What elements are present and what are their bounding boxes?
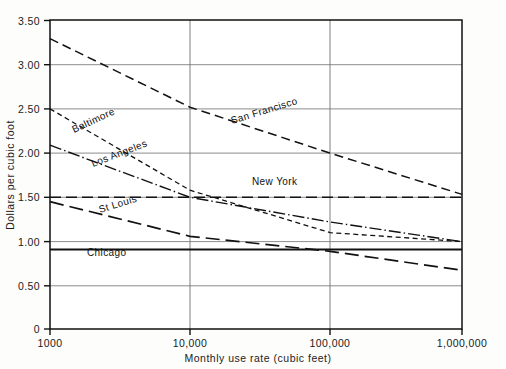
ytick-label-1.50: 1.50 bbox=[18, 191, 40, 203]
y-axis-title: Dollars per cubic foot bbox=[4, 120, 16, 230]
ytick-label-0.50: 0.50 bbox=[18, 280, 40, 292]
x-ticks bbox=[50, 329, 462, 335]
ytick-label-0: 0 bbox=[34, 323, 40, 335]
ytick-label-2.50: 2.50 bbox=[18, 103, 40, 115]
xtick-label-1000: 1000 bbox=[38, 337, 63, 349]
xtick-label-1000000: 1,000,000 bbox=[437, 337, 487, 349]
xtick-label-100000: 100,000 bbox=[310, 337, 351, 349]
x-axis-title: Monthly use rate (cubic feet) bbox=[185, 352, 332, 364]
ytick-label-1.00: 1.00 bbox=[18, 236, 40, 248]
chart-figure: 3.50 3.00 2.50 2.00 1.50 1.00 0.50 0 100… bbox=[0, 0, 506, 369]
series-label-new-york: New York bbox=[252, 176, 298, 187]
line-chart: 3.50 3.00 2.50 2.00 1.50 1.00 0.50 0 100… bbox=[0, 0, 506, 369]
xtick-label-10000: 10,000 bbox=[173, 337, 208, 349]
plot-background bbox=[50, 20, 462, 329]
series-label-chicago: Chicago bbox=[87, 247, 127, 258]
y-ticks bbox=[44, 21, 50, 330]
ytick-label-3.00: 3.00 bbox=[18, 59, 40, 71]
ytick-label-3.50: 3.50 bbox=[18, 15, 40, 27]
ytick-label-2.00: 2.00 bbox=[18, 147, 40, 159]
